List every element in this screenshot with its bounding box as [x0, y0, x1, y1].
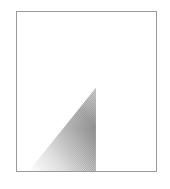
- figure-root: [0, 0, 170, 189]
- plot-frame: [16, 11, 157, 172]
- plot-canvas: [17, 12, 156, 171]
- gradient-triangle: [17, 12, 156, 171]
